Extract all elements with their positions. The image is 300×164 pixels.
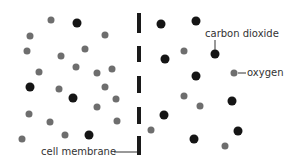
carbon-dioxide-molecule: [234, 127, 243, 136]
carbon-dioxide-molecule: [160, 111, 169, 120]
carbon-dioxide-molecule: [190, 135, 199, 144]
oxygen-molecule: [231, 70, 238, 77]
oxygen-molecule: [58, 53, 65, 60]
cell-membrane-label: cell membrane: [41, 146, 116, 157]
oxygen-molecule: [222, 143, 229, 150]
oxygen-molecule: [36, 69, 43, 76]
carbon-dioxide-label: carbon dioxide: [205, 28, 279, 39]
membrane-dash: [137, 46, 141, 62]
carbon-dioxide-molecule: [211, 50, 220, 59]
carbon-dioxide-molecule: [73, 19, 82, 28]
oxygen-molecule: [102, 32, 109, 39]
diffusion-diagram: carbon dioxide oxygen cell membrane: [0, 0, 300, 164]
carbon-dioxide-molecule: [228, 97, 237, 106]
carbon-dioxide-molecule: [85, 131, 94, 140]
oxygen-molecule: [197, 103, 204, 110]
diagram-canvas: carbon dioxide oxygen cell membrane: [0, 0, 300, 164]
membrane-dash: [137, 136, 141, 155]
carbon-dioxide-molecule: [192, 17, 201, 26]
oxygen-molecule: [181, 93, 188, 100]
oxygen-molecule: [24, 48, 31, 55]
oxygen-molecule: [109, 66, 116, 73]
carbon-dioxide-molecule: [157, 20, 166, 29]
oxygen-molecule: [27, 33, 34, 40]
carbon-dioxide-molecule: [192, 72, 201, 81]
oxygen-molecule: [19, 136, 26, 143]
oxygen-molecule: [56, 86, 63, 93]
membrane-dash: [137, 13, 141, 33]
membrane-dash: [137, 107, 141, 124]
carbon-dioxide-molecule: [69, 94, 78, 103]
oxygen-molecule: [102, 84, 109, 91]
oxygen-molecule: [82, 46, 89, 53]
oxygen-molecule: [113, 96, 120, 103]
carbon-dioxide-molecule: [26, 83, 35, 92]
oxygen-molecule: [26, 111, 33, 118]
oxygen-molecule: [73, 64, 80, 71]
oxygen-molecule: [148, 127, 155, 134]
oxygen-molecule: [62, 132, 69, 139]
oxygen-molecule: [114, 118, 121, 125]
oxygen-molecule: [47, 119, 54, 126]
cell-membrane: [137, 13, 141, 155]
oxygen-label: oxygen: [247, 67, 283, 78]
oxygen-molecule: [94, 70, 101, 77]
oxygen-molecule: [94, 104, 101, 111]
membrane-dash: [137, 76, 141, 93]
carbon-dioxide-molecule: [161, 55, 170, 64]
oxygen-molecule: [48, 17, 55, 24]
oxygen-molecule: [181, 48, 188, 55]
